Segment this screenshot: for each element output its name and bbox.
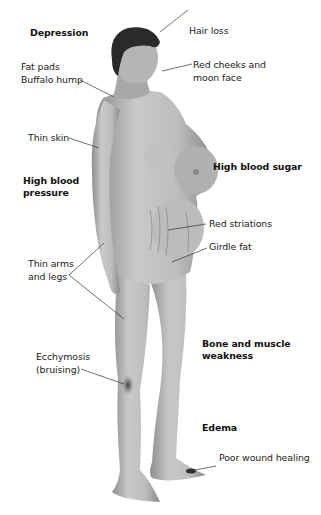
label-bone-muscle-1: Bone and muscle (202, 338, 291, 351)
label-thin-arms: Thin arms (28, 258, 74, 271)
label-high-blood-sugar: High blood sugar (213, 161, 302, 174)
label-edema: Edema (202, 422, 237, 435)
label-fat-pads: Fat pads (21, 61, 60, 74)
label-poor-wound-healing: Poor wound healing (219, 452, 310, 465)
label-hair-loss: Hair loss (189, 25, 228, 38)
label-thin-skin: Thin skin (28, 132, 69, 145)
toe-wound (186, 469, 196, 474)
label-high-blood-pressure-2: pressure (23, 187, 69, 200)
label-red-striations: Red striations (209, 218, 272, 231)
label-red-cheeks: Red cheeks and (193, 59, 266, 72)
label-buffalo-hump: Buffalo hump (21, 74, 83, 87)
label-high-blood-pressure-1: High blood (23, 175, 79, 188)
label-ecchymosis: Ecchymosis (36, 351, 90, 364)
label-depression: Depression (30, 27, 88, 40)
label-and-legs: and legs (28, 271, 67, 284)
left-leg (150, 270, 206, 480)
bruise-mark (122, 375, 134, 395)
label-bruising: (bruising) (36, 364, 80, 377)
label-girdle-fat: Girdle fat (209, 241, 252, 254)
label-bone-muscle-2: weakness (202, 350, 253, 363)
label-moon-face: moon face (193, 72, 242, 85)
